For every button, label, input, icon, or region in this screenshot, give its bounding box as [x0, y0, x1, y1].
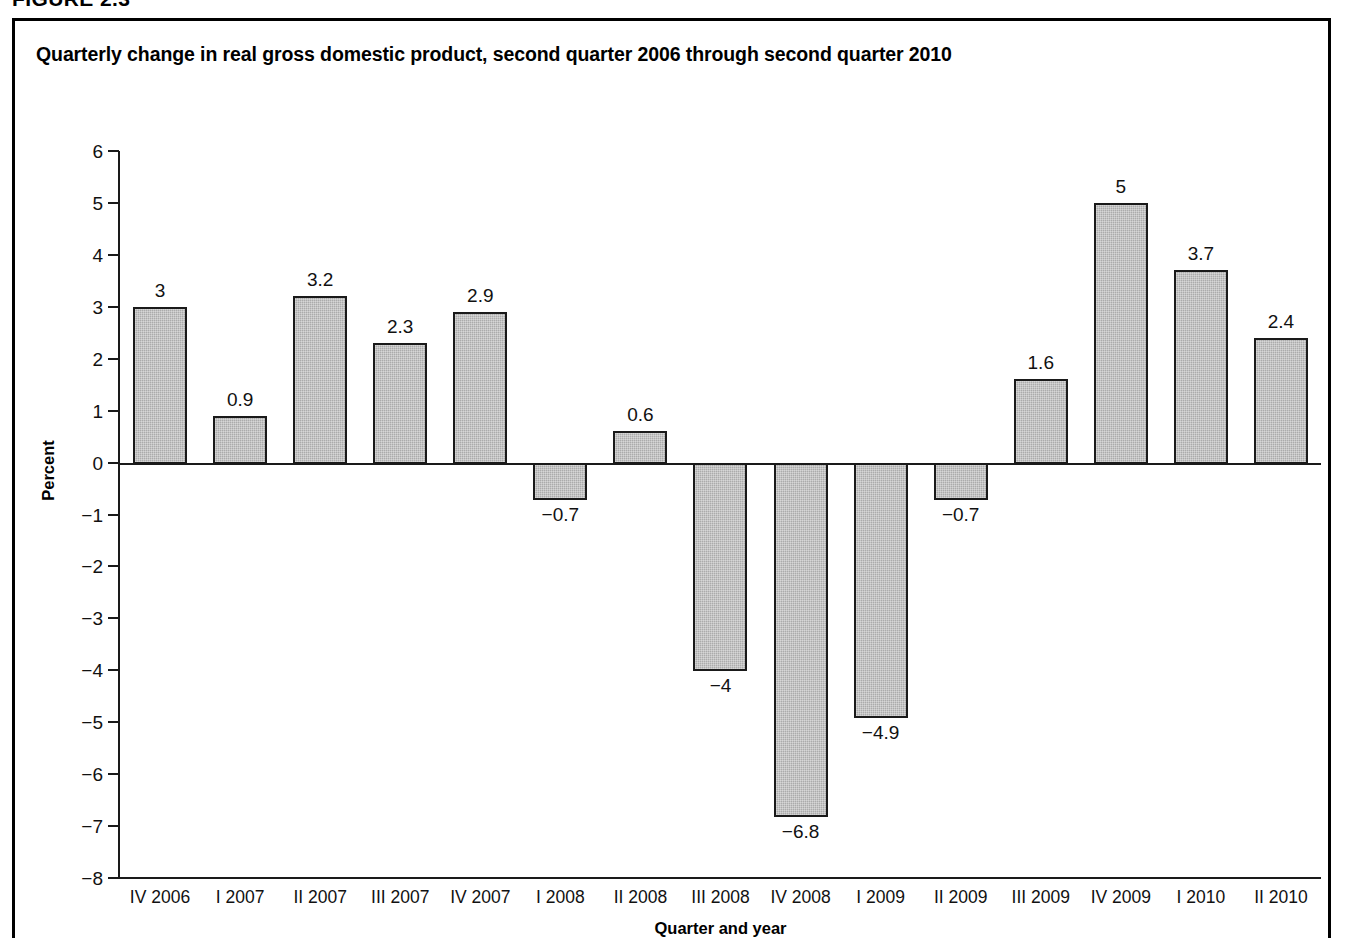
- figure-container: FIGURE 2.3 Quarterly change in real gros…: [0, 0, 1347, 938]
- bar-group: 5IV 2009: [1081, 21, 1161, 938]
- y-axis-tick-label: −4: [59, 660, 103, 682]
- chart-plot-area: 6543210−1−2−3−4−5−6−7−8 Percent 3IV 2006…: [15, 21, 1334, 938]
- bar-group: −6.8IV 2008: [761, 21, 841, 938]
- x-axis-tick-label: I 2008: [520, 887, 600, 908]
- y-axis-tick-label: −2: [59, 556, 103, 578]
- y-axis-tick: [108, 410, 119, 412]
- x-axis-tick-label: IV 2007: [440, 887, 520, 908]
- x-axis-tick-label: I 2007: [200, 887, 280, 908]
- y-axis-tick: [108, 150, 119, 152]
- y-axis-tick-label: 0: [59, 453, 103, 475]
- y-axis-tick: [108, 773, 119, 775]
- y-axis-tick: [108, 462, 119, 464]
- y-axis-tick-label: 2: [59, 349, 103, 371]
- x-axis-tick-label: III 2008: [680, 887, 760, 908]
- bar-value-label: −6.8: [761, 821, 841, 843]
- bar-value-label: 3: [120, 280, 200, 302]
- bar-value-label: 0.6: [600, 404, 680, 426]
- y-axis-tick: [108, 825, 119, 827]
- y-axis-tick-label: −7: [59, 816, 103, 838]
- x-axis-tick-label: III 2007: [360, 887, 440, 908]
- x-axis-tick-label: III 2009: [1001, 887, 1081, 908]
- figure-number-label: FIGURE 2.3: [12, 0, 130, 11]
- bar-series: 3IV 20060.9I 20073.2II 20072.3III 20072.…: [120, 21, 1321, 938]
- x-axis-title: Quarter and year: [120, 919, 1321, 938]
- y-axis-title: Percent: [39, 416, 58, 526]
- bar-group: 3.2II 2007: [280, 21, 360, 938]
- x-axis-tick-label: IV 2009: [1081, 887, 1161, 908]
- bar-value-label: −4: [680, 675, 760, 697]
- bar-value-label: −0.7: [921, 504, 1001, 526]
- bar: [213, 416, 267, 464]
- bar-group: −4III 2008: [680, 21, 760, 938]
- bar: [1254, 338, 1308, 464]
- bar-group: 3.7I 2010: [1161, 21, 1241, 938]
- x-axis-tick-label: II 2007: [280, 887, 360, 908]
- x-axis-tick-label: IV 2006: [120, 887, 200, 908]
- figure-frame: Quarterly change in real gross domestic …: [12, 18, 1331, 938]
- bar-value-label: 2.3: [360, 316, 440, 338]
- bar-group: 0.9I 2007: [200, 21, 280, 938]
- bar: [613, 431, 667, 463]
- bar-value-label: 0.9: [200, 389, 280, 411]
- y-axis-tick: [108, 877, 119, 879]
- y-axis-tick: [108, 254, 119, 256]
- y-axis-tick: [108, 358, 119, 360]
- bar-value-label: 1.6: [1001, 352, 1081, 374]
- bar-group: −0.7II 2009: [921, 21, 1001, 938]
- bar-group: 2.9IV 2007: [440, 21, 520, 938]
- y-axis-tick: [108, 514, 119, 516]
- bar-group: 2.4II 2010: [1241, 21, 1321, 938]
- bar: [533, 463, 587, 500]
- x-axis-tick-label: II 2009: [921, 887, 1001, 908]
- y-axis-tick: [108, 202, 119, 204]
- bar: [1014, 379, 1068, 463]
- bar: [1174, 270, 1228, 463]
- y-axis-tick-label: −6: [59, 764, 103, 786]
- y-axis-tick-label: −3: [59, 608, 103, 630]
- bar-group: 1.6III 2009: [1001, 21, 1081, 938]
- x-axis-tick-label: II 2010: [1241, 887, 1321, 908]
- y-axis-tick: [108, 306, 119, 308]
- x-axis-tick-label: I 2010: [1161, 887, 1241, 908]
- y-axis-tick-label: 3: [59, 297, 103, 319]
- bar: [934, 463, 988, 500]
- bar-value-label: 2.4: [1241, 311, 1321, 333]
- bar: [133, 307, 187, 464]
- bar-group: 0.6II 2008: [600, 21, 680, 938]
- bar-value-label: 3.2: [280, 269, 360, 291]
- y-axis-tick-label: 1: [59, 401, 103, 423]
- x-axis-tick-label: IV 2008: [761, 887, 841, 908]
- bar-group: −0.7I 2008: [520, 21, 600, 938]
- y-axis-tick-label: −5: [59, 712, 103, 734]
- bar-value-label: 5: [1081, 176, 1161, 198]
- bar-group: 2.3III 2007: [360, 21, 440, 938]
- bar-value-label: −4.9: [841, 722, 921, 744]
- y-axis-tick-label: −1: [59, 505, 103, 527]
- bar: [693, 463, 747, 672]
- y-axis-tick-label: 5: [59, 193, 103, 215]
- bar-group: −4.9I 2009: [841, 21, 921, 938]
- bar-value-label: 3.7: [1161, 243, 1241, 265]
- x-axis-tick-label: I 2009: [841, 887, 921, 908]
- y-axis-tick: [108, 669, 119, 671]
- bar: [373, 343, 427, 463]
- bar: [1094, 203, 1148, 464]
- bar-value-label: 2.9: [440, 285, 520, 307]
- y-axis-tick-label: 4: [59, 245, 103, 267]
- bar: [774, 463, 828, 817]
- bar: [453, 312, 507, 464]
- y-axis-tick: [108, 565, 119, 567]
- y-axis-tick: [108, 617, 119, 619]
- y-axis-tick: [108, 721, 119, 723]
- bar: [293, 296, 347, 463]
- bar: [854, 463, 908, 718]
- y-axis-tick-label: 6: [59, 141, 103, 163]
- bar-group: 3IV 2006: [120, 21, 200, 938]
- x-axis-tick-label: II 2008: [600, 887, 680, 908]
- bar-value-label: −0.7: [520, 504, 600, 526]
- y-axis-tick-label: −8: [59, 868, 103, 890]
